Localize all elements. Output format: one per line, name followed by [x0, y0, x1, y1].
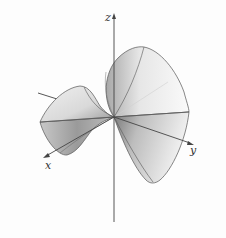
right-lobe-upper: [106, 47, 189, 117]
z-axis-arrow: [112, 13, 116, 19]
z-axis-label: z: [105, 12, 111, 23]
left-lobe-lower: [40, 117, 114, 155]
right-lobe-lower: [114, 112, 189, 183]
saddle-surface-figure: z x y: [0, 0, 226, 238]
y-axis-label: y: [190, 145, 196, 156]
left-lobe-upper: [40, 86, 114, 122]
surface-plot: [0, 0, 226, 238]
x-axis-arrow: [43, 153, 50, 158]
x-axis-label: x: [45, 160, 51, 171]
